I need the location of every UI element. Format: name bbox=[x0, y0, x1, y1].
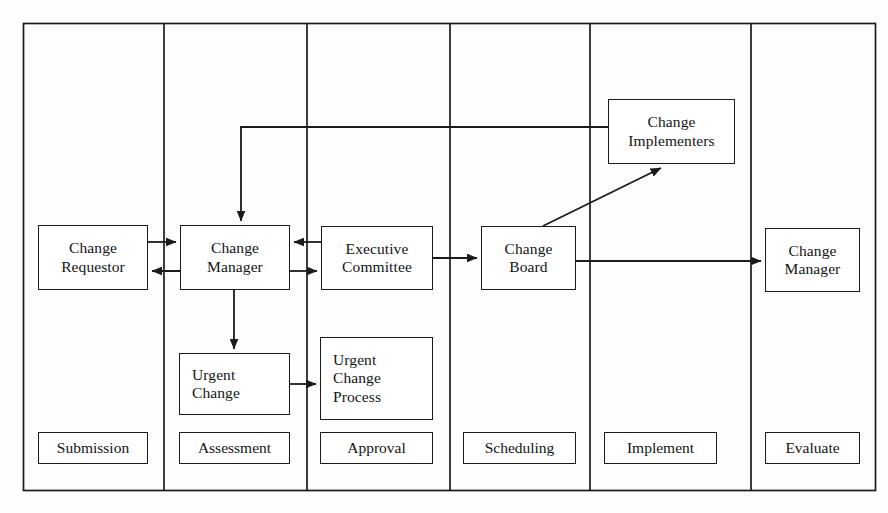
node-change-board[interactable]: Change Board bbox=[481, 226, 576, 290]
conn-implementers-feedback-to-manager bbox=[241, 127, 608, 221]
lane-label-submission[interactable]: Submission bbox=[38, 432, 148, 464]
lane-label-implement[interactable]: Implement bbox=[604, 432, 717, 464]
node-line: Process bbox=[321, 388, 381, 406]
node-change-manager-evaluate[interactable]: Change Manager bbox=[765, 228, 860, 292]
node-line: Urgent bbox=[321, 351, 376, 369]
lane-label-approval[interactable]: Approval bbox=[320, 432, 433, 464]
node-executive-committee[interactable]: Executive Committee bbox=[321, 226, 433, 290]
lane-label-assessment[interactable]: Assessment bbox=[179, 432, 290, 464]
node-change-manager[interactable]: Change Manager bbox=[180, 225, 290, 290]
node-urgent-change[interactable]: Urgent Change bbox=[179, 353, 290, 415]
node-line: Change bbox=[789, 242, 837, 260]
swimlane-frame bbox=[24, 24, 876, 491]
lane-label-text: Assessment bbox=[198, 439, 271, 457]
node-line: Change bbox=[648, 113, 696, 131]
lane-label-text: Approval bbox=[347, 439, 406, 457]
lane-label-text: Evaluate bbox=[785, 439, 839, 457]
lane-label-scheduling[interactable]: Scheduling bbox=[463, 432, 576, 464]
node-line: Board bbox=[509, 258, 547, 276]
node-line: Change bbox=[69, 239, 117, 257]
node-line: Change bbox=[505, 240, 553, 258]
node-line: Change bbox=[321, 369, 381, 387]
node-line: Executive bbox=[346, 240, 409, 258]
node-change-requestor[interactable]: Change Requestor bbox=[38, 225, 148, 290]
node-line: Change bbox=[211, 239, 259, 257]
lane-label-text: Scheduling bbox=[485, 439, 555, 457]
lane-label-text: Submission bbox=[57, 439, 129, 457]
node-urgent-change-process[interactable]: Urgent Change Process bbox=[320, 337, 433, 420]
lane-label-text: Implement bbox=[627, 439, 694, 457]
conn-board-to-implementers bbox=[543, 168, 661, 226]
node-change-implementers[interactable]: Change Implementers bbox=[608, 99, 735, 164]
node-line: Urgent bbox=[180, 366, 235, 384]
node-line: Requestor bbox=[61, 258, 125, 276]
node-line: Implementers bbox=[628, 132, 714, 150]
node-line: Committee bbox=[342, 258, 412, 276]
swimlane-diagram: Change Requestor Change Manager Urgent C… bbox=[0, 0, 888, 513]
lane-label-evaluate[interactable]: Evaluate bbox=[765, 432, 860, 464]
node-line: Manager bbox=[785, 260, 841, 278]
node-line: Manager bbox=[207, 258, 263, 276]
node-line: Change bbox=[180, 384, 240, 402]
